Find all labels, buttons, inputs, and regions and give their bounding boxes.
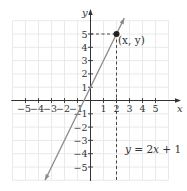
y-tick-label: 4 bbox=[81, 42, 87, 53]
y-tick-label: −4 bbox=[73, 148, 87, 159]
x-tick-label: 4 bbox=[139, 103, 145, 114]
equation-label: y = 2x + 1 bbox=[124, 143, 181, 155]
line-arrow-up-icon bbox=[120, 18, 125, 24]
y-tick-label: −3 bbox=[73, 135, 87, 146]
y-axis-label: y bbox=[81, 7, 88, 18]
x-tick-label: 1 bbox=[100, 103, 106, 114]
eq-tail: + 1 bbox=[159, 143, 181, 155]
point-label: (x, y) bbox=[118, 34, 145, 46]
x-tick-label: 3 bbox=[126, 103, 132, 114]
y-tick-label: 5 bbox=[81, 29, 87, 40]
y-tick-label: 1 bbox=[81, 82, 87, 93]
y-tick-label: −5 bbox=[73, 162, 87, 173]
coordinate-plane: −5−4−3−2−112345−5−4−3−2−112345 x y (x, y… bbox=[0, 0, 187, 191]
x-tick-label: −4 bbox=[30, 103, 44, 114]
y-tick-label: −2 bbox=[73, 122, 87, 133]
x-tick-label: −5 bbox=[17, 103, 31, 114]
y-tick-label: 3 bbox=[81, 55, 87, 66]
x-tick-label: −3 bbox=[43, 103, 57, 114]
x-tick-label: 5 bbox=[152, 103, 158, 114]
y-axis-arrow-icon bbox=[88, 9, 92, 15]
y-tick-label: 2 bbox=[81, 68, 87, 79]
eq-mid: = 2 bbox=[131, 143, 153, 155]
x-axis-label: x bbox=[177, 103, 183, 114]
x-tick-label: −2 bbox=[56, 103, 70, 114]
line-arrow-down-icon bbox=[45, 174, 50, 180]
